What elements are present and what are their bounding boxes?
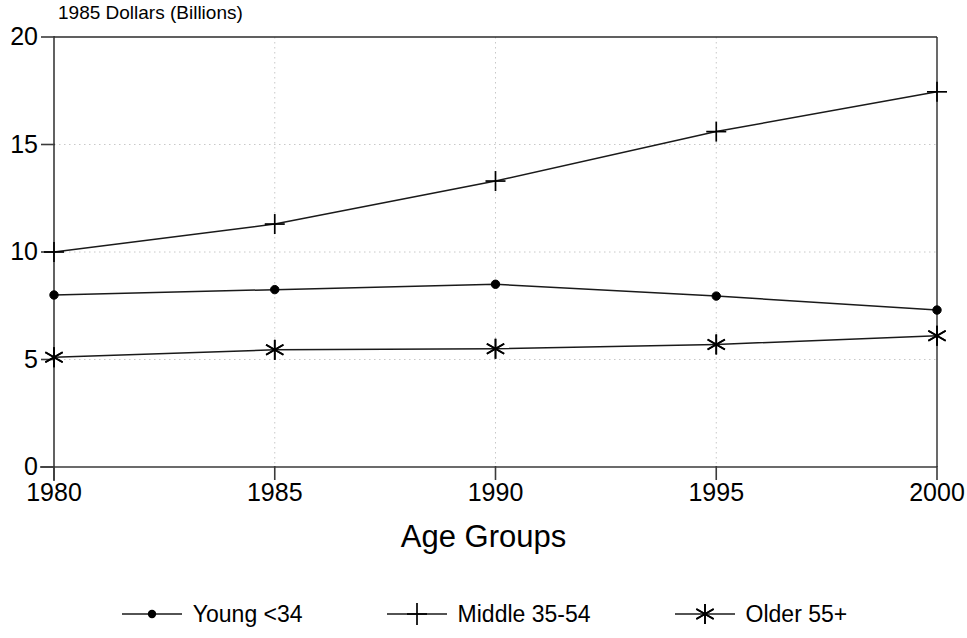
- x-tick-label: 1980: [0, 480, 114, 505]
- dot-marker-icon: [50, 291, 58, 299]
- legend-label: Young <34: [193, 601, 303, 628]
- legend-label: Older 55+: [746, 601, 848, 628]
- x-axis-title: Age Groups: [0, 518, 967, 556]
- y-tick-label: 20: [0, 24, 38, 49]
- dot-marker-icon: [120, 601, 184, 627]
- y-tick-label: 0: [0, 454, 38, 479]
- legend-item[interactable]: Older 55+: [673, 601, 848, 628]
- legend-item[interactable]: Middle 35-54: [385, 601, 591, 628]
- plus-marker-icon: [385, 601, 449, 627]
- dot-marker-icon: [712, 292, 720, 300]
- asterisk-marker-icon: [673, 601, 737, 627]
- dot-marker-icon: [933, 306, 941, 314]
- legend-item[interactable]: Young <34: [120, 601, 303, 628]
- x-tick-label: 1990: [436, 480, 556, 505]
- dot-marker-icon: [491, 280, 499, 288]
- dot-marker-icon: [271, 285, 279, 293]
- y-tick-label: 10: [0, 239, 38, 264]
- chart-legend: Young <34Middle 35-54Older 55+: [0, 594, 967, 634]
- legend-label: Middle 35-54: [458, 601, 591, 628]
- y-tick-label: 5: [0, 347, 38, 372]
- line-chart-figure: 1985 Dollars (Billions) 05101520 1980198…: [0, 0, 967, 638]
- x-tick-label: 1985: [215, 480, 335, 505]
- x-tick-label: 1995: [656, 480, 776, 505]
- y-tick-label: 15: [0, 132, 38, 157]
- x-tick-label: 2000: [877, 480, 967, 505]
